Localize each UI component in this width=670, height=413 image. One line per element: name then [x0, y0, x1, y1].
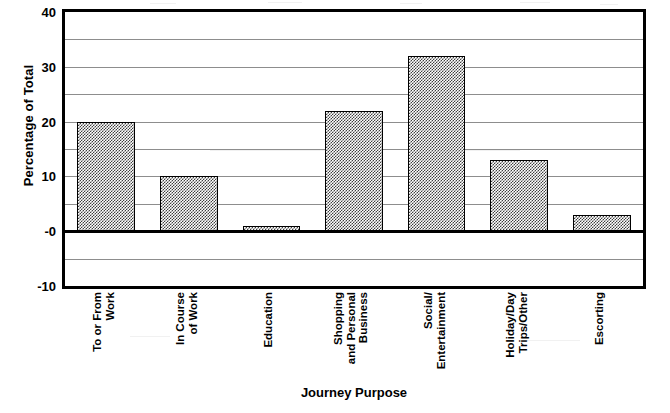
zero-baseline — [65, 230, 643, 233]
x-axis-category-label: In Courseof Work — [145, 292, 228, 380]
y-axis-tick-label: 40 — [10, 6, 56, 19]
bar — [573, 215, 631, 231]
plot-inner — [65, 12, 643, 286]
x-axis-category-label-line: Social/ — [421, 292, 434, 369]
y-axis-tick-label: 10 — [10, 170, 56, 183]
x-axis-category-label-line: To or From — [91, 292, 104, 352]
x-axis-category-label-line: Work — [103, 292, 116, 352]
x-axis-category-label: Social/Entertainment — [392, 292, 475, 380]
bar — [408, 56, 466, 231]
x-axis-category-label: To or FromWork — [62, 292, 145, 380]
x-axis-category-label-line: Business — [357, 292, 370, 364]
y-axis-tick-label: 30 — [10, 60, 56, 73]
bar — [325, 111, 383, 232]
x-axis-category-label-line: and Personal — [345, 292, 358, 364]
bar — [490, 160, 548, 231]
x-axis-category-label-line: In Course — [173, 292, 186, 345]
y-axis-tick-label: -10 — [10, 280, 56, 293]
x-axis-category-label-line: Entertainment — [434, 292, 447, 369]
bar — [160, 176, 218, 231]
x-axis-category-label-line: Trips/Other — [516, 292, 529, 358]
x-axis-category-labels: To or FromWorkIn Courseof WorkEducationS… — [62, 292, 646, 380]
x-axis-category-label-line: Escorting — [592, 292, 605, 345]
x-axis-title: Journey Purpose — [62, 385, 646, 400]
x-axis-category-label-line: Education — [262, 292, 275, 348]
x-axis-category-label: Shoppingand PersonalBusiness — [310, 292, 393, 380]
y-axis-tick-label: -0 — [10, 225, 56, 238]
bar-chart: Percentage of Total 40302010-0-10 To or … — [0, 0, 670, 413]
bar — [77, 122, 135, 232]
x-axis-category-label: Escorting — [557, 292, 640, 380]
y-axis-tick-label: 20 — [10, 115, 56, 128]
x-axis-category-label: Education — [227, 292, 310, 380]
x-axis-category-label-line: Shopping — [332, 292, 345, 364]
bars-layer — [65, 12, 643, 286]
x-axis-category-label-line: of Work — [186, 292, 199, 345]
x-axis-category-label: Holiday/DayTrips/Other — [475, 292, 558, 380]
x-axis-category-label-line: Holiday/Day — [504, 292, 517, 358]
y-axis-tick-labels: 40302010-0-10 — [0, 0, 56, 413]
plot-area — [62, 9, 646, 289]
